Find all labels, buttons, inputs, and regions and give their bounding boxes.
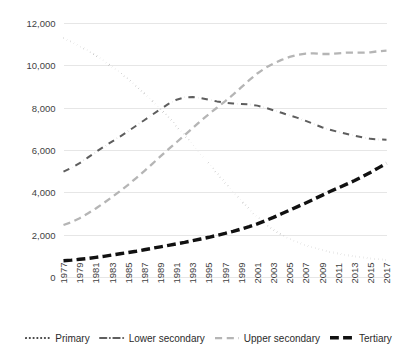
plot-area: 02,0004,0006,0008,00010,00012,000 197719…	[0, 0, 417, 322]
legend-swatch-icon	[25, 335, 51, 341]
y-tick-label: 0	[50, 272, 55, 283]
x-tick-label: 1999	[236, 262, 247, 283]
legend-swatch-icon	[329, 334, 355, 341]
x-tick-label: 2003	[268, 262, 279, 283]
x-tick-label: 1991	[171, 262, 182, 283]
y-axis-tick-labels: 02,0004,0006,0008,00010,00012,000	[26, 18, 55, 283]
legend-label: Upper secondary	[244, 333, 320, 344]
legend-label: Primary	[55, 333, 89, 344]
x-tick-label: 2009	[317, 262, 328, 283]
line-chart: 02,0004,0006,0008,00010,00012,000 197719…	[0, 0, 417, 354]
chart-canvas: 02,0004,0006,0008,00010,00012,000 197719…	[0, 0, 417, 322]
x-tick-label: 1981	[90, 262, 101, 283]
legend-item-lower-secondary[interactable]: Lower secondary	[99, 333, 205, 344]
y-tick-label: 8,000	[32, 103, 56, 114]
legend-swatch-icon	[99, 335, 125, 341]
series-line-primary	[64, 38, 387, 260]
x-tick-label: 1977	[58, 262, 69, 283]
x-tick-label: 2013	[349, 262, 360, 283]
x-tick-label: 2015	[365, 262, 376, 283]
x-tick-label: 1997	[220, 262, 231, 283]
x-tick-label: 1995	[203, 262, 214, 283]
y-tick-label: 10,000	[26, 60, 55, 71]
x-tick-label: 1993	[187, 262, 198, 283]
y-tick-label: 6,000	[32, 145, 56, 156]
series-line-upper-secondary	[64, 51, 387, 225]
x-axis-tick-labels: 1977197919811983198519871989199119931995…	[58, 262, 392, 283]
x-tick-label: 1983	[107, 262, 118, 283]
x-tick-label: 2011	[333, 263, 344, 283]
legend-item-primary[interactable]: Primary	[25, 333, 89, 344]
data-series-group	[64, 38, 387, 260]
legend-item-upper-secondary[interactable]: Upper secondary	[214, 333, 320, 344]
gridlines-group	[64, 24, 387, 278]
legend-label: Lower secondary	[129, 333, 205, 344]
y-tick-label: 12,000	[26, 18, 55, 29]
series-line-tertiary	[64, 163, 387, 261]
x-tick-label: 2001	[252, 262, 263, 283]
x-tick-label: 1989	[155, 262, 166, 283]
y-tick-label: 2,000	[32, 230, 56, 241]
x-tick-label: 2007	[300, 262, 311, 283]
x-tick-label: 2017	[381, 262, 392, 283]
legend-swatch-icon	[214, 335, 240, 341]
x-tick-label: 1985	[123, 262, 134, 283]
y-tick-label: 4,000	[32, 187, 56, 198]
x-tick-label: 2005	[284, 262, 295, 283]
x-tick-label: 1987	[139, 262, 150, 283]
legend-item-tertiary[interactable]: Tertiary	[329, 333, 392, 344]
chart-legend: PrimaryLower secondaryUpper secondaryTer…	[0, 326, 417, 350]
x-tick-label: 1979	[74, 262, 85, 283]
legend-label: Tertiary	[359, 333, 392, 344]
